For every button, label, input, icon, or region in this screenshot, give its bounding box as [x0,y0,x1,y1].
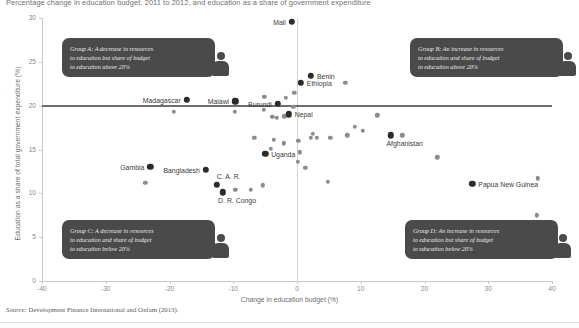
scatter-point-labeled [262,151,268,157]
x-tick-label: 30 [473,285,503,292]
x-tick [297,281,298,284]
source-note: Source: Development Finance Internationa… [6,306,178,313]
scatter-point [328,136,332,140]
y-tick [39,106,42,107]
person-icon-group-c [212,234,229,258]
scatter-point [345,133,349,137]
scatter-point [232,110,236,114]
scatter-point-label: Mali [273,18,286,25]
x-axis-title: Change in education budget (%) [0,296,579,303]
scatter-point [283,96,287,100]
scatter-point [252,136,256,140]
scatter-point [315,136,319,140]
x-tick [488,281,489,284]
scatter-point-labeled [232,98,238,104]
scatter-point-label: Uganda [271,150,295,157]
scatter-point-labeled [289,18,295,24]
scatter-point [260,183,264,187]
callout-group-d-text: Group D: An increase in resources to edu… [413,226,550,254]
scatter-point [262,108,266,112]
scatter-point-labeled [184,96,190,102]
scatter-point [233,188,237,192]
scatter-point-label: Burundi [248,100,272,107]
scatter-point-labeled [203,166,209,172]
scatter-point-labeled [388,132,394,138]
scatter-point [353,125,357,129]
scatter-point [343,81,347,85]
x-tick-label: -40 [27,285,57,292]
person-icon-group-a [212,52,229,76]
x-tick-label: -10 [218,285,248,292]
callout-group-c: Group C: A decrease in resources to educ… [62,220,215,259]
x-tick-label: 0 [282,285,312,292]
scatter-point-labeled [469,180,475,186]
x-tick [106,281,107,284]
x-tick [42,281,43,284]
plot-area: -40-30-20-10010203040051015202530 MaliMa… [0,0,579,300]
scatter-point-label: Ethiopia [307,79,332,86]
scatter-point [297,150,301,154]
scatter-point [262,95,266,99]
x-tick [170,281,171,284]
scatter-point-label: Gambia [120,164,144,171]
twenty-percent-reference-line [42,105,552,107]
y-tick [39,237,42,238]
scatter-point-label: Bangladesh [163,166,199,173]
scatter-point-label: Papua New Guinea [478,180,538,187]
scatter-point [400,133,404,137]
x-tick-label: 20 [410,285,440,292]
scatter-point-labeled [286,111,292,117]
scatter-point [534,213,538,217]
scatter-point [303,166,307,170]
scatter-point-labeled [147,164,153,170]
scatter-point [291,104,295,108]
x-tick [361,281,362,284]
scatter-point-label: Malawi [208,98,229,105]
x-tick [233,281,234,284]
scatter-point-label: Nepal [295,111,313,118]
scatter-point [274,116,278,120]
scatter-point [143,181,147,185]
x-tick [425,281,426,284]
scatter-point [375,113,379,117]
scatter-point-label: Afghanistan [387,140,423,147]
person-icon-group-b [559,52,576,76]
scatter-point [172,110,176,114]
y-axis-line [42,18,43,281]
callout-group-a-text: Group A: A decrease in resources to educ… [70,44,207,72]
x-tick-label: -20 [155,285,185,292]
y-tick [39,62,42,63]
callout-group-b: Group B: An increase in resources to edu… [410,38,563,77]
x-tick-label: -30 [91,285,121,292]
scatter-point [309,136,313,140]
scatter-point [360,129,364,133]
chart-figure: Percentage change in education budget, 2… [0,0,579,328]
callout-group-b-text: Group B: An increase in resources to edu… [418,44,555,72]
x-tick-label: 10 [346,285,376,292]
y-tick [39,193,42,194]
scatter-point [272,138,276,142]
scatter-point-label: Madagascar [143,96,181,103]
scatter-point-labeled [213,181,219,187]
callout-group-c-text: Group C: A decrease in resources to educ… [70,226,207,254]
scatter-point-label: C. A. R. [217,173,241,180]
scatter-point [325,180,329,184]
person-icon-group-d [554,234,571,258]
y-tick-label: 30 [16,14,36,21]
source-prefix: Source: [6,306,27,313]
scatter-point-label: Benin [317,72,335,79]
scatter-point [296,139,300,143]
scatter-point [295,160,299,164]
y-tick [39,18,42,19]
y-axis-title: Education as a share of total government… [14,24,21,284]
callout-group-d: Group D: An increase in resources to edu… [405,220,558,259]
y-tick [39,281,42,282]
scatter-point-labeled [298,80,304,86]
bottom-divider [0,322,579,323]
scatter-point [435,155,439,159]
source-text: Development Finance International and Ox… [27,306,179,313]
scatter-point [249,188,253,192]
callout-group-a: Group A: A decrease in resources to educ… [62,38,215,77]
y-tick [39,150,42,151]
scatter-point [281,141,285,145]
